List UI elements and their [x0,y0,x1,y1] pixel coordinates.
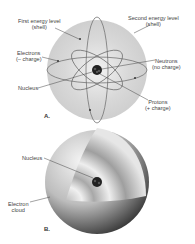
label-electrons: Electrons(– charge) [16,50,42,62]
label-protons: Protons(+ charge) [145,99,171,111]
label-second-energy-level: Second energy level(shell) [128,15,179,27]
electron [79,38,81,40]
label-electron-cloud: Electroncloud [8,201,29,213]
panel-a-atom [38,17,155,123]
label-first-energy-level: First energy level(shell) [18,18,61,30]
label-neutrons: Neutrons(no charge) [152,58,181,70]
electron [89,109,91,111]
nucleus [92,65,102,75]
label-nucleus-a: Nucleus [18,85,38,91]
figure-label-b: B. [44,226,50,232]
electron [134,77,136,79]
atom-diagram [0,0,195,244]
panel-b-electron-cloud [30,128,149,234]
figure-label-a: A. [44,113,50,119]
nucleus [92,177,102,187]
label-nucleus-b: Nucleus [22,155,42,161]
